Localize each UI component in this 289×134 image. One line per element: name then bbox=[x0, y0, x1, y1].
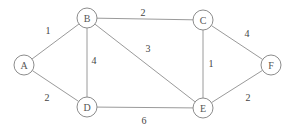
edge-weight-a-d: 2 bbox=[45, 92, 50, 103]
edge-weight-c-e: 1 bbox=[209, 58, 214, 69]
node-label: D bbox=[83, 102, 90, 113]
edge-weight-b-d: 4 bbox=[92, 55, 97, 66]
node-e: E bbox=[193, 98, 213, 118]
node-a: A bbox=[14, 55, 34, 75]
edge-d-e bbox=[97, 107, 193, 108]
edge-c-f bbox=[211, 26, 262, 60]
edge-b-e bbox=[95, 24, 195, 102]
node-label: E bbox=[200, 103, 206, 114]
edge-a-d bbox=[32, 71, 78, 102]
edges-layer bbox=[32, 18, 263, 108]
node-label: F bbox=[268, 60, 274, 71]
node-c: C bbox=[193, 10, 213, 30]
edge-a-b bbox=[32, 24, 79, 59]
nodes-layer: ABCDEF bbox=[14, 8, 281, 118]
edge-weight-b-e: 3 bbox=[146, 43, 151, 54]
weighted-graph-diagram: 122431462 ABCDEF bbox=[0, 0, 289, 134]
edge-weight-b-c: 2 bbox=[141, 7, 146, 18]
node-label: A bbox=[20, 60, 28, 71]
edge-weight-a-b: 1 bbox=[46, 25, 51, 36]
node-f: F bbox=[261, 55, 281, 75]
edge-weight-e-f: 2 bbox=[246, 92, 251, 103]
edge-weight-c-f: 4 bbox=[245, 28, 250, 39]
edge-b-c bbox=[97, 18, 193, 20]
node-label: B bbox=[84, 13, 91, 24]
node-label: C bbox=[200, 15, 207, 26]
node-b: B bbox=[77, 8, 97, 28]
edge-e-f bbox=[211, 70, 262, 102]
edge-weight-d-e: 6 bbox=[142, 115, 147, 126]
node-d: D bbox=[77, 97, 97, 117]
